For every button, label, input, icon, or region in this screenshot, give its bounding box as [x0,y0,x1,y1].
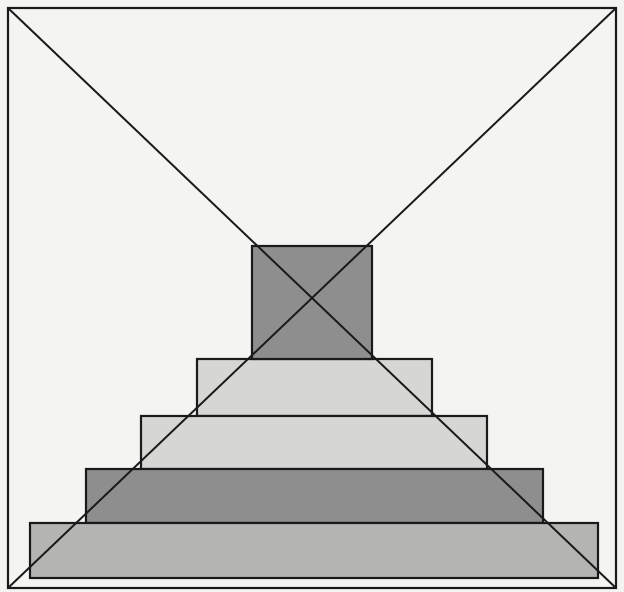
tier-3-rect [86,469,543,523]
perspective-pyramid-diagram [0,0,624,592]
center-square [252,246,372,359]
diagram-canvas [0,0,624,592]
tier-2-rect [141,416,487,469]
tier-4-rect [30,523,598,578]
tier-1-rect [197,359,432,416]
